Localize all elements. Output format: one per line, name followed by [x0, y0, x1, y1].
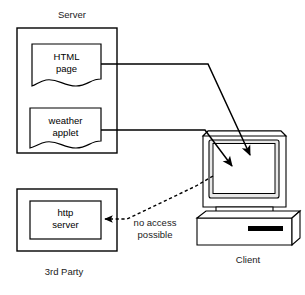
edge-client-to-httpserver: [105, 176, 213, 219]
node-html-page[interactable]: HTML page: [32, 44, 101, 86]
node-weather-applet[interactable]: weather applet: [30, 108, 101, 148]
node-http-server[interactable]: http server: [30, 201, 101, 239]
monitor-top-bevel: [203, 131, 286, 136]
html-page-label-line1: HTML: [54, 51, 80, 62]
diagram-canvas: Server HTML page weather applet 3rd Part…: [0, 0, 305, 295]
http-server-label-line2: server: [52, 219, 78, 230]
computer-base-front: [197, 218, 292, 245]
http-server-label-line1: http: [58, 207, 74, 218]
weather-applet-label-line1: weather: [48, 115, 83, 126]
group-label-third-party: 3rd Party: [45, 266, 84, 277]
group-label-client: Client: [236, 254, 261, 265]
group-label-server: Server: [58, 9, 86, 20]
diagram-svg: Server HTML page weather applet 3rd Part…: [0, 0, 305, 295]
weather-applet-label-line2: applet: [53, 127, 79, 138]
drive-slot: [248, 226, 283, 231]
no-access-label-line2: possible: [138, 229, 173, 240]
monitor-screen: [213, 144, 275, 194]
no-access-label-line1: no access: [134, 217, 177, 228]
html-page-label-line2: page: [56, 63, 77, 74]
computer-base-top: [197, 211, 300, 218]
edge-label-no-access: no access possible: [134, 217, 177, 240]
